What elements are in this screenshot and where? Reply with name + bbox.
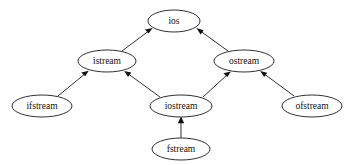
edge-iostream-to-istream — [124, 71, 160, 97]
node-ios[interactable]: ios — [148, 10, 200, 32]
node-label-ifstream: ifstream — [26, 101, 58, 111]
node-label-iostream: iostream — [165, 101, 198, 111]
edge-istream-to-ios — [122, 28, 153, 51]
node-label-fstream: fstream — [167, 144, 196, 154]
arrowhead-iostream-istream — [124, 71, 131, 77]
node-label-ios: ios — [168, 16, 179, 26]
edge-fstream-to-iostream — [178, 117, 184, 138]
edge-iostream-to-ostream — [203, 71, 231, 97]
edge-layer — [58, 28, 294, 138]
edge-line-ostream-ios — [199, 30, 228, 51]
node-ifstream[interactable]: ifstream — [12, 95, 72, 117]
edge-ifstream-to-istream — [58, 71, 89, 96]
node-label-ostream: ostream — [229, 56, 260, 66]
node-label-istream: istream — [93, 56, 122, 66]
arrowhead-ofstream-ostream — [260, 71, 267, 77]
arrowhead-iostream-ostream — [223, 71, 231, 77]
edge-ostream-to-ios — [196, 28, 228, 51]
node-ostream[interactable]: ostream — [214, 50, 274, 72]
node-istream[interactable]: istream — [78, 50, 136, 72]
diagram-canvas: ios istream ostream ifstream iostream of — [0, 0, 345, 165]
node-layer: ios istream ostream ifstream iostream of — [12, 10, 342, 160]
edge-line-iostream-istream — [127, 73, 160, 97]
arrowhead-fstream-iostream — [178, 117, 184, 124]
edge-line-ifstream-istream — [58, 73, 86, 96]
node-iostream[interactable]: iostream — [150, 95, 212, 117]
node-label-ofstream: ofstream — [295, 101, 329, 111]
edge-line-ofstream-ostream — [263, 73, 294, 96]
class-hierarchy-diagram: ios istream ostream ifstream iostream of — [0, 0, 345, 165]
edge-line-iostream-ostream — [203, 74, 228, 97]
edge-line-istream-ios — [122, 30, 150, 51]
arrowhead-ostream-ios — [196, 28, 203, 34]
node-ofstream[interactable]: ofstream — [282, 95, 342, 117]
node-fstream[interactable]: fstream — [152, 138, 210, 160]
edge-ofstream-to-ostream — [260, 71, 294, 96]
